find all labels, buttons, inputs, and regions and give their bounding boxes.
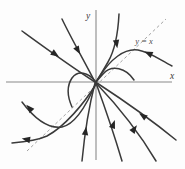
arrowhead-lower-left-hook — [24, 103, 34, 114]
x-axis-label: x — [169, 71, 175, 81]
phase-portrait-svg: y x y = x — [0, 0, 185, 169]
arrowhead-upper-right-hook — [143, 49, 153, 58]
trajectory-upper-right-hook — [96, 50, 172, 82]
trajectory-lower-left-hook — [22, 83, 96, 127]
trajectory-lower-right-mid — [96, 83, 122, 161]
axes-group — [6, 10, 172, 160]
asymptote-label: y = x — [134, 36, 153, 46]
y-axis-label: y — [85, 11, 91, 21]
arrowhead-upper-left-inner — [73, 45, 83, 55]
trajectory-lower-right-outer — [96, 83, 156, 161]
trajectory-upper-center-hook — [96, 14, 119, 82]
phase-portrait-figure: y x y = x — [0, 0, 185, 169]
